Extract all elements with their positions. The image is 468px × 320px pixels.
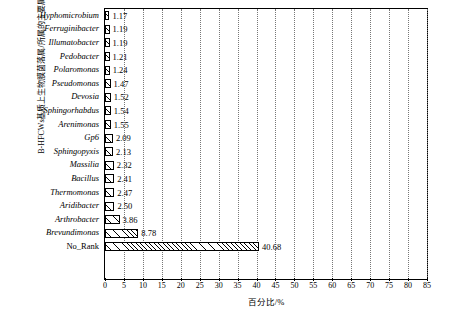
bar-value-label: 1.54 — [114, 106, 129, 116]
bar-row: 1.19 — [105, 36, 427, 50]
x-tick-label: 50 — [290, 281, 298, 290]
bar-row: 2.50 — [105, 199, 427, 213]
bar[interactable] — [105, 38, 110, 47]
category-label: Aridibacter — [0, 198, 103, 212]
x-tick-label: 35 — [234, 281, 242, 290]
bar-row: 40.68 — [105, 240, 427, 254]
bar-value-label: 1.21 — [113, 52, 128, 62]
bar-value-label: 1.19 — [113, 24, 128, 34]
x-tick-label: 85 — [423, 281, 431, 290]
bar-row: 3.86 — [105, 213, 427, 227]
category-label: Gp6 — [0, 130, 103, 144]
x-tick-mark — [370, 278, 371, 281]
x-tick-label: 80 — [404, 281, 412, 290]
x-tick-label: 25 — [196, 281, 204, 290]
bar[interactable] — [105, 202, 114, 211]
x-tick-mark — [238, 278, 239, 281]
x-tick-label: 20 — [177, 281, 185, 290]
category-label: Pedobacter — [0, 49, 103, 63]
category-label: Sphingorhabdus — [0, 103, 103, 117]
x-tick-label: 5 — [122, 281, 126, 290]
bar[interactable] — [105, 93, 111, 102]
bar-row: 8.78 — [105, 227, 427, 241]
category-label: Thermomonas — [0, 185, 103, 199]
bar[interactable] — [105, 161, 114, 170]
category-label: Devosia — [0, 90, 103, 104]
bar[interactable] — [105, 106, 111, 115]
x-tick-mark — [389, 278, 390, 281]
bar-row: 1.52 — [105, 91, 427, 105]
x-tick-mark — [351, 278, 352, 281]
bar[interactable] — [105, 52, 110, 61]
x-tick-label: 15 — [158, 281, 166, 290]
bar-row: 1.54 — [105, 104, 427, 118]
x-tick-mark — [275, 278, 276, 281]
bar-row: 2.32 — [105, 159, 427, 173]
x-tick-mark — [105, 278, 106, 281]
category-label: Pseudomonas — [0, 76, 103, 90]
bar[interactable] — [105, 134, 113, 143]
bar[interactable] — [105, 120, 111, 129]
x-tick-label: 75 — [385, 281, 393, 290]
plot-area: 1.171.191.191.211.241.471.521.541.552.09… — [104, 8, 428, 280]
category-label: Bacillus — [0, 171, 103, 185]
category-label: Sphingopyxis — [0, 144, 103, 158]
x-tick-mark — [427, 278, 428, 281]
bar-value-label: 2.13 — [116, 147, 131, 157]
bar-value-label: 2.09 — [116, 133, 131, 143]
x-tick-mark — [313, 278, 314, 281]
x-tick-label: 40 — [253, 281, 261, 290]
x-tick-mark — [332, 278, 333, 281]
bar-value-label: 1.17 — [112, 11, 127, 21]
category-label: Ferruginibacter — [0, 22, 103, 36]
x-tick-mark — [294, 278, 295, 281]
bar[interactable] — [105, 229, 138, 238]
x-tick-label: 70 — [366, 281, 374, 290]
bar-value-label: 40.68 — [262, 242, 281, 252]
category-label: Brevundimonas — [0, 226, 103, 240]
bar-row: 2.13 — [105, 145, 427, 159]
bar-row: 2.41 — [105, 172, 427, 186]
bar[interactable] — [105, 25, 110, 34]
bar-value-label: 1.24 — [113, 65, 128, 75]
bar-value-label: 3.86 — [123, 215, 138, 225]
x-tick-label: 65 — [347, 281, 355, 290]
bar-row: 2.47 — [105, 186, 427, 200]
bar[interactable] — [105, 11, 109, 20]
bar-row: 1.19 — [105, 23, 427, 37]
x-tick-mark — [200, 278, 201, 281]
bar[interactable] — [105, 188, 114, 197]
bar[interactable] — [105, 242, 259, 251]
bar-value-label: 1.55 — [114, 120, 129, 130]
y-axis-category-labels: HyphomicrobiumFerruginibacterIllumatobac… — [0, 8, 103, 280]
gridline — [427, 9, 428, 279]
x-tick-mark — [162, 278, 163, 281]
bar-value-label: 2.50 — [117, 201, 132, 211]
bar-value-label: 1.47 — [114, 79, 129, 89]
x-tick-mark — [143, 278, 144, 281]
bar[interactable] — [105, 79, 111, 88]
bar[interactable] — [105, 215, 120, 224]
x-tick-label: 30 — [215, 281, 223, 290]
bar-value-label: 2.47 — [117, 188, 132, 198]
x-tick-label: 55 — [309, 281, 317, 290]
bar[interactable] — [105, 147, 113, 156]
x-tick-mark — [257, 278, 258, 281]
bar-row: 1.55 — [105, 118, 427, 132]
x-axis-ticks: 0510152025303540455055606570758085 — [104, 281, 428, 293]
bar-series: 1.171.191.191.211.241.471.521.541.552.09… — [105, 9, 427, 279]
bar-value-label: 1.52 — [114, 92, 129, 102]
bar-value-label: 8.78 — [141, 228, 156, 238]
category-label: Illumatobacter — [0, 35, 103, 49]
x-tick-mark — [408, 278, 409, 281]
x-axis-title: 百分比/% — [104, 295, 428, 307]
x-tick-mark — [124, 278, 125, 281]
x-tick-mark — [219, 278, 220, 281]
bar[interactable] — [105, 66, 110, 75]
bar[interactable] — [105, 174, 114, 183]
category-label: Massilia — [0, 158, 103, 172]
bar-value-label: 1.19 — [113, 38, 128, 48]
bar-value-label: 2.32 — [117, 160, 132, 170]
bar-row: 1.17 — [105, 9, 427, 23]
x-tick-label: 60 — [328, 281, 336, 290]
